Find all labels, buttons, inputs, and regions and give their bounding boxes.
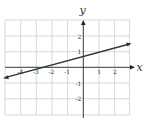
y-tick-p2: 2 xyxy=(78,33,82,40)
y-tick-m1: -1 xyxy=(76,80,82,87)
coordinate-plane: x y -4 -3 -2 -1 1 2 2 1 -1 -2 xyxy=(0,0,144,121)
y-tick-m2: -2 xyxy=(76,95,82,102)
line-arrow-left-icon xyxy=(3,75,9,79)
x-tick-p2: 2 xyxy=(113,68,117,75)
x-tick-p1: 1 xyxy=(97,68,101,75)
x-tick-m1: -1 xyxy=(64,68,70,75)
x-axis-label: x xyxy=(137,61,144,74)
y-tick-p1: 1 xyxy=(78,48,82,55)
x-axis-arrow-icon xyxy=(130,65,135,70)
line-arrow-right-icon xyxy=(126,43,131,47)
x-tick-labels: -4 -3 -2 -1 1 2 xyxy=(18,68,118,75)
y-axis-label: y xyxy=(79,4,87,17)
y-axis-arrow-icon xyxy=(81,20,86,25)
x-tick-m2: -2 xyxy=(49,68,55,75)
